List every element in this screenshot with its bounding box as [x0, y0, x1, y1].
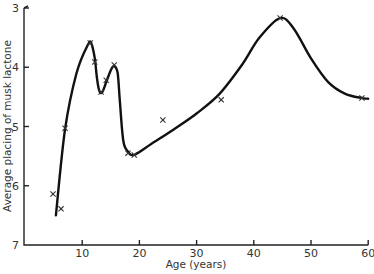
x-axis-label: Age (years) [166, 258, 227, 270]
y-tick-label: 3 [12, 2, 19, 15]
x-tick-label: 40 [247, 247, 261, 260]
y-tick-label: 5 [12, 121, 19, 134]
data-point-x-marker [219, 97, 224, 102]
axes: 34567102030405060 [12, 2, 374, 260]
line-chart: 34567102030405060 Age (years) Average pl… [0, 0, 374, 274]
x-tick-label: 60 [361, 247, 374, 260]
fitted-curve [56, 18, 368, 216]
fitted-curve-path [56, 18, 368, 216]
data-point-x-marker [50, 191, 55, 196]
data-point-x-marker [160, 117, 165, 122]
data-points [50, 15, 364, 211]
y-tick-label: 6 [12, 180, 19, 193]
x-tick-label: 50 [304, 247, 318, 260]
y-tick-label: 4 [12, 61, 19, 74]
y-tick-label: 7 [12, 239, 19, 252]
x-tick-label: 20 [132, 247, 146, 260]
axis-lines [24, 8, 368, 245]
x-tick-label: 10 [75, 247, 89, 260]
data-point-x-marker [58, 206, 63, 211]
y-axis-label: Average placing of musk lactone [1, 40, 13, 212]
